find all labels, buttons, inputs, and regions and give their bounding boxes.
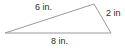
side-length-label-upper-left: 6 in.: [35, 2, 52, 13]
triangle-outline: [5, 4, 111, 33]
side-length-label-base: 8 in.: [51, 36, 68, 47]
triangle-figure: 6 in. 2 in 8 in.: [0, 0, 125, 51]
side-length-label-right: 2 in: [106, 8, 121, 19]
